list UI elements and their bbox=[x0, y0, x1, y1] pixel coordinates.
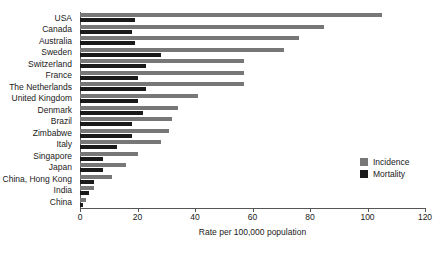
bar-mortality bbox=[80, 134, 132, 138]
bar-mortality bbox=[80, 203, 83, 207]
bar-incidence bbox=[80, 117, 172, 121]
bar-incidence bbox=[80, 186, 94, 190]
bar-row bbox=[80, 127, 425, 139]
legend-label: Mortality bbox=[373, 170, 405, 179]
bar-mortality bbox=[80, 87, 146, 91]
bar-mortality bbox=[80, 76, 138, 80]
bar-row bbox=[80, 93, 425, 105]
bar-mortality bbox=[80, 41, 135, 45]
bar-incidence bbox=[80, 163, 126, 167]
category-label: Brazil bbox=[0, 116, 76, 128]
x-axis-tick-label: 60 bbox=[248, 213, 257, 222]
bar-row bbox=[80, 12, 425, 24]
x-axis-title: Rate per 100,000 population bbox=[80, 228, 425, 237]
bar-incidence bbox=[80, 175, 112, 179]
bar-row bbox=[80, 70, 425, 82]
bar-incidence bbox=[80, 59, 244, 63]
bar-mortality bbox=[80, 145, 117, 149]
category-label: Italy bbox=[0, 139, 76, 151]
bar-mortality bbox=[80, 168, 103, 172]
bar-mortality bbox=[80, 18, 135, 22]
bar-row bbox=[80, 81, 425, 93]
category-label: France bbox=[0, 70, 76, 82]
bar-row bbox=[80, 35, 425, 47]
bar-row bbox=[80, 58, 425, 70]
bar-incidence bbox=[80, 106, 178, 110]
category-label: Sweden bbox=[0, 47, 76, 59]
category-label: Denmark bbox=[0, 104, 76, 116]
bar-incidence bbox=[80, 13, 382, 17]
category-label: China bbox=[0, 197, 76, 209]
bar-incidence bbox=[80, 25, 324, 29]
bar-incidence bbox=[80, 140, 161, 144]
bar-row bbox=[80, 104, 425, 116]
bar-incidence bbox=[80, 71, 244, 75]
category-label: United Kingdom bbox=[0, 93, 76, 105]
legend-item: Incidence bbox=[360, 158, 409, 167]
x-axis-tick-label: 100 bbox=[360, 213, 374, 222]
bar-incidence bbox=[80, 48, 284, 52]
x-axis-tick-label: 20 bbox=[133, 213, 142, 222]
legend-item: Mortality bbox=[360, 170, 409, 179]
bar-row bbox=[80, 47, 425, 59]
bar-incidence bbox=[80, 152, 138, 156]
bar-mortality bbox=[80, 111, 143, 115]
bar-row bbox=[80, 197, 425, 209]
bar-row bbox=[80, 139, 425, 151]
bar-incidence bbox=[80, 36, 299, 40]
bar-row bbox=[80, 116, 425, 128]
category-label: Zimbabwe bbox=[0, 127, 76, 139]
bar-mortality bbox=[80, 53, 161, 57]
bar-incidence bbox=[80, 198, 86, 202]
category-axis-labels: USACanadaAustraliaSwedenSwitzerlandFranc… bbox=[0, 12, 76, 208]
category-label: Japan bbox=[0, 162, 76, 174]
category-label: USA bbox=[0, 12, 76, 24]
category-label: Canada bbox=[0, 24, 76, 36]
chart-legend: IncidenceMortality bbox=[360, 158, 409, 181]
bar-mortality bbox=[80, 64, 146, 68]
bar-incidence bbox=[80, 129, 169, 133]
x-axis-tick-label: 80 bbox=[305, 213, 314, 222]
legend-label: Incidence bbox=[373, 158, 409, 167]
x-axis-tick-label: 120 bbox=[418, 213, 432, 222]
category-label: The Netherlands bbox=[0, 81, 76, 93]
category-label: China, Hong Kong bbox=[0, 173, 76, 185]
bar-chart: USACanadaAustraliaSwedenSwitzerlandFranc… bbox=[0, 0, 448, 261]
bar-incidence bbox=[80, 82, 244, 86]
category-label: India bbox=[0, 185, 76, 197]
bar-mortality bbox=[80, 191, 89, 195]
category-label: Switzerland bbox=[0, 58, 76, 70]
bar-mortality bbox=[80, 180, 94, 184]
bar-mortality bbox=[80, 122, 132, 126]
legend-swatch-incidence bbox=[360, 158, 368, 166]
category-label: Singapore bbox=[0, 150, 76, 162]
legend-swatch-mortality bbox=[360, 170, 368, 178]
bar-row bbox=[80, 185, 425, 197]
x-axis-tick-label: 0 bbox=[78, 213, 83, 222]
category-label: Australia bbox=[0, 35, 76, 47]
bar-mortality bbox=[80, 157, 103, 161]
bar-mortality bbox=[80, 99, 138, 103]
x-axis-tick-label: 40 bbox=[190, 213, 199, 222]
bar-mortality bbox=[80, 30, 132, 34]
bar-incidence bbox=[80, 94, 198, 98]
bar-row bbox=[80, 24, 425, 36]
